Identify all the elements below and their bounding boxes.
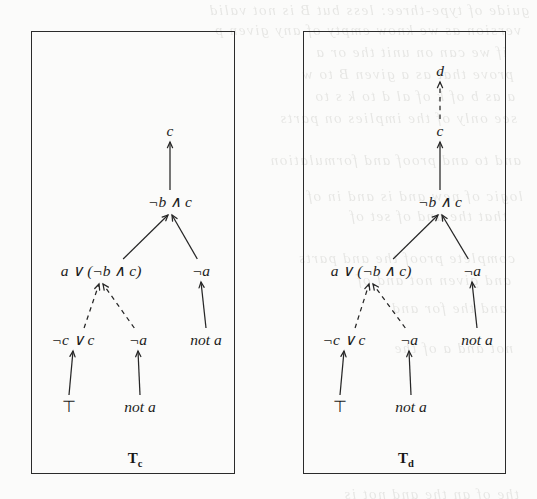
proof-node-not-a-2: not a <box>395 398 427 415</box>
proof-node-c-root: c <box>437 122 444 139</box>
proof-node-neg-a: ¬a <box>400 331 418 348</box>
proof-edge-top-to-nc-or-c <box>340 351 346 395</box>
proof-edge-nb-and-c-to-c-root <box>437 142 442 190</box>
proof-edge-c-root-to-d-root <box>437 82 442 119</box>
proof-edge-not-a-2-to-neg-a <box>407 351 412 395</box>
proof-edge-neg-a-to-a-or <box>373 284 405 328</box>
edge-arrowhead <box>373 284 378 290</box>
proof-edge-not-a-1-to-not-a-r <box>470 282 477 328</box>
proof-edge-nc-or-c-to-a-or <box>355 284 370 328</box>
caption-base: T <box>398 450 408 466</box>
edge-arrowhead <box>365 284 370 290</box>
caption-subscript: d <box>408 458 414 469</box>
proof-node-not-a-r: ¬a <box>463 262 481 279</box>
proof-node-top: ⊤ <box>333 398 347 415</box>
figure-page: guide of type-three: less but B is not v… <box>0 0 537 499</box>
proof-tree-caption-tree-d: Td <box>398 450 414 469</box>
proof-node-nc-or-c: ¬c ∨ c <box>323 331 366 348</box>
proof-node-a-or: a ∨ (¬b ∧ c) <box>331 262 412 280</box>
proof-node-nb-and-c: ¬b ∧ c <box>418 193 462 210</box>
proof-tree-graphics-tree-d: dc¬b ∧ ca ∨ (¬b ∧ c)¬a¬c ∨ c¬anot a⊤not … <box>1 1 537 499</box>
proof-edge-a-or-to-nb-and-c <box>393 215 438 259</box>
proof-edge-not-a-r-to-nb-and-c <box>442 215 468 259</box>
proof-tree-panel-tree-d: dc¬b ∧ ca ∨ (¬b ∧ c)¬a¬c ∨ c¬anot a⊤not … <box>303 31 506 474</box>
edge-arrowhead <box>437 82 442 88</box>
proof-node-not-a-1: not a <box>461 331 493 348</box>
proof-node-d-root: d <box>436 62 444 79</box>
